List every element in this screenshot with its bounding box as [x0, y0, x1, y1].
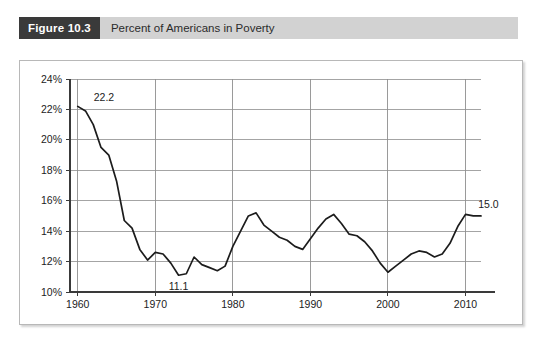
figure-header: Figure 10.3 Percent of Americans in Pove… [19, 17, 518, 39]
grid-lines [70, 79, 481, 292]
axis-lines [66, 79, 495, 296]
data-point-annotations: 22.211.115.0 [94, 91, 499, 292]
figure-number-badge: Figure 10.3 [19, 17, 100, 39]
x-tick-label: 2010 [454, 298, 478, 310]
y-tick-label: 12% [41, 255, 62, 267]
x-axis-tick-labels: 196019701980199020002010 [66, 298, 477, 310]
y-tick-label: 14% [41, 225, 62, 237]
chart-frame: 10%12%14%16%18%20%22%24% 196019701980199… [19, 60, 523, 325]
data-value-label: 22.2 [94, 91, 115, 103]
x-tick-label: 1990 [299, 298, 323, 310]
x-tick-label: 1970 [144, 298, 168, 310]
data-value-label: 15.0 [478, 198, 499, 210]
y-axis-tick-labels: 10%12%14%16%18%20%22%24% [41, 73, 62, 298]
y-tick-label: 10% [41, 286, 62, 298]
x-tick-label: 2000 [376, 298, 400, 310]
y-tick-label: 18% [41, 164, 62, 176]
data-series-line [78, 106, 481, 275]
figure-caption: Percent of Americans in Poverty [100, 17, 275, 39]
y-tick-label: 22% [41, 103, 62, 115]
y-tick-label: 20% [41, 133, 62, 145]
x-tick-label: 1980 [221, 298, 245, 310]
poverty-line-chart: 10%12%14%16%18%20%22%24% 196019701980199… [20, 61, 522, 324]
y-tick-label: 16% [41, 194, 62, 206]
poverty-rate-line [78, 106, 481, 275]
y-tick-label: 24% [41, 73, 62, 85]
data-value-label: 11.1 [169, 280, 189, 292]
x-tick-label: 1960 [66, 298, 90, 310]
